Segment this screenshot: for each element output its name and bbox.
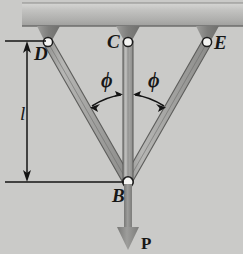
label-joint-e: E <box>214 33 227 52</box>
truss-figure: D C E B l ϕ ϕ P <box>0 0 243 254</box>
member-cb <box>123 41 133 183</box>
label-force-p: P <box>141 235 151 252</box>
label-joint-d: D <box>34 44 48 63</box>
pin-joint-c <box>123 37 132 46</box>
label-joint-b: B <box>112 186 125 205</box>
ceiling-support-bar <box>22 3 243 26</box>
label-angle-left: ϕ <box>101 70 113 90</box>
pin-joint-e <box>202 37 211 46</box>
label-angle-right: ϕ <box>148 70 160 90</box>
label-length-l: l <box>20 104 25 123</box>
truss-drawing <box>0 0 243 254</box>
label-joint-c: C <box>107 32 120 51</box>
